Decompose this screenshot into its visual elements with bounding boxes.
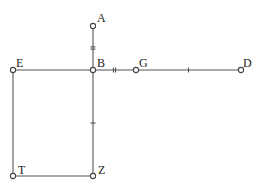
point-g-icon bbox=[133, 67, 138, 72]
point-e-icon bbox=[10, 67, 15, 72]
geometry-diagram: ABEGDTZ bbox=[0, 0, 259, 192]
point-label-b: B bbox=[97, 56, 105, 70]
point-label-a: A bbox=[97, 11, 106, 25]
segments-layer bbox=[13, 26, 241, 176]
point-b-icon bbox=[90, 67, 95, 72]
point-t-icon bbox=[10, 173, 15, 178]
point-label-d: D bbox=[243, 56, 252, 70]
point-label-g: G bbox=[139, 56, 148, 70]
points-layer bbox=[10, 23, 243, 178]
point-label-e: E bbox=[16, 56, 23, 70]
point-label-z: Z bbox=[98, 163, 105, 177]
point-label-t: T bbox=[18, 163, 26, 177]
point-a-icon bbox=[90, 23, 95, 28]
point-z-icon bbox=[90, 173, 95, 178]
labels-layer: ABEGDTZ bbox=[16, 11, 252, 177]
